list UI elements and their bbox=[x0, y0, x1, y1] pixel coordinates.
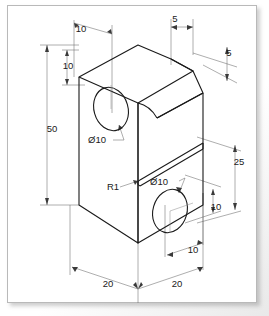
chamfer-round-top bbox=[138, 103, 157, 118]
groove-fillet-r1 bbox=[138, 180, 140, 186]
arrow-hole-h-top bbox=[65, 50, 69, 56]
holes bbox=[89, 83, 193, 237]
arrow-50-top bbox=[45, 45, 49, 52]
dim-label-lower-hole-offset-10: 10 bbox=[188, 244, 199, 255]
arrow-20r-right bbox=[197, 267, 203, 272]
groove-top-edge bbox=[140, 143, 203, 180]
dim-label-top-width-10: 10 bbox=[76, 23, 87, 34]
dim-label-chamfer-5: 5 bbox=[226, 47, 231, 58]
arrow-chamfer-bot bbox=[225, 74, 229, 81]
dim-label-groove-height-25: 25 bbox=[234, 156, 245, 167]
dim-label-base-width-right-20: 20 bbox=[172, 278, 183, 289]
dim-label-base-width-left-20: 20 bbox=[103, 278, 114, 289]
hole-centerlines bbox=[111, 85, 193, 233]
lower-hole-centerline-h bbox=[170, 203, 193, 211]
isometric-drawing: 10 5 5 10 50 Ø10 R1 Ø10 25 10 10 20 20 bbox=[7, 5, 257, 303]
drawing-page: 10 5 5 10 50 Ø10 R1 Ø10 25 10 10 20 20 bbox=[0, 0, 269, 316]
dim-label-upper-hole-diameter: Ø10 bbox=[88, 134, 106, 145]
chamfer-lower-edge bbox=[157, 93, 203, 118]
arrow-10r-top bbox=[211, 189, 215, 195]
arrow-hole-h-bot bbox=[65, 79, 69, 85]
ext-line-chamfer-b bbox=[203, 65, 237, 83]
arrow-20l-left bbox=[72, 267, 78, 272]
dim-label-lower-hole-height-10: 10 bbox=[211, 201, 222, 212]
dim-label-total-height-50: 50 bbox=[47, 123, 58, 134]
dim-line-base-right bbox=[138, 267, 203, 289]
arrow-5-right bbox=[187, 25, 193, 30]
dim-label-hole-height-10: 10 bbox=[63, 60, 74, 71]
dim-label-top-depth-5: 5 bbox=[172, 13, 177, 24]
arrow-50-bot bbox=[45, 198, 49, 205]
dim-label-lower-hole-diameter: Ø10 bbox=[150, 176, 168, 187]
arrow-25-bot bbox=[233, 203, 237, 210]
front-left-face bbox=[79, 77, 138, 243]
arrow-5-left bbox=[171, 25, 177, 30]
dim-label-fillet-r1: R1 bbox=[107, 181, 119, 192]
